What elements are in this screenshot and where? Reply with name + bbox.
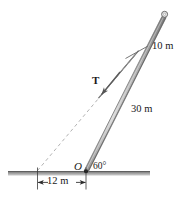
label-angle-60: 60°	[93, 162, 106, 172]
label-lower-segment-length: 30 m	[131, 104, 152, 115]
label-base-distance: 12 m	[47, 176, 68, 187]
label-upper-segment-length: 10 m	[152, 41, 173, 52]
pole-top-ring-icon	[162, 11, 168, 17]
label-tension-force: T	[92, 75, 99, 86]
statics-pole-figure: 10 m 30 m T O 60° 12 m	[0, 0, 188, 198]
label-pivot-point: O	[74, 161, 82, 172]
